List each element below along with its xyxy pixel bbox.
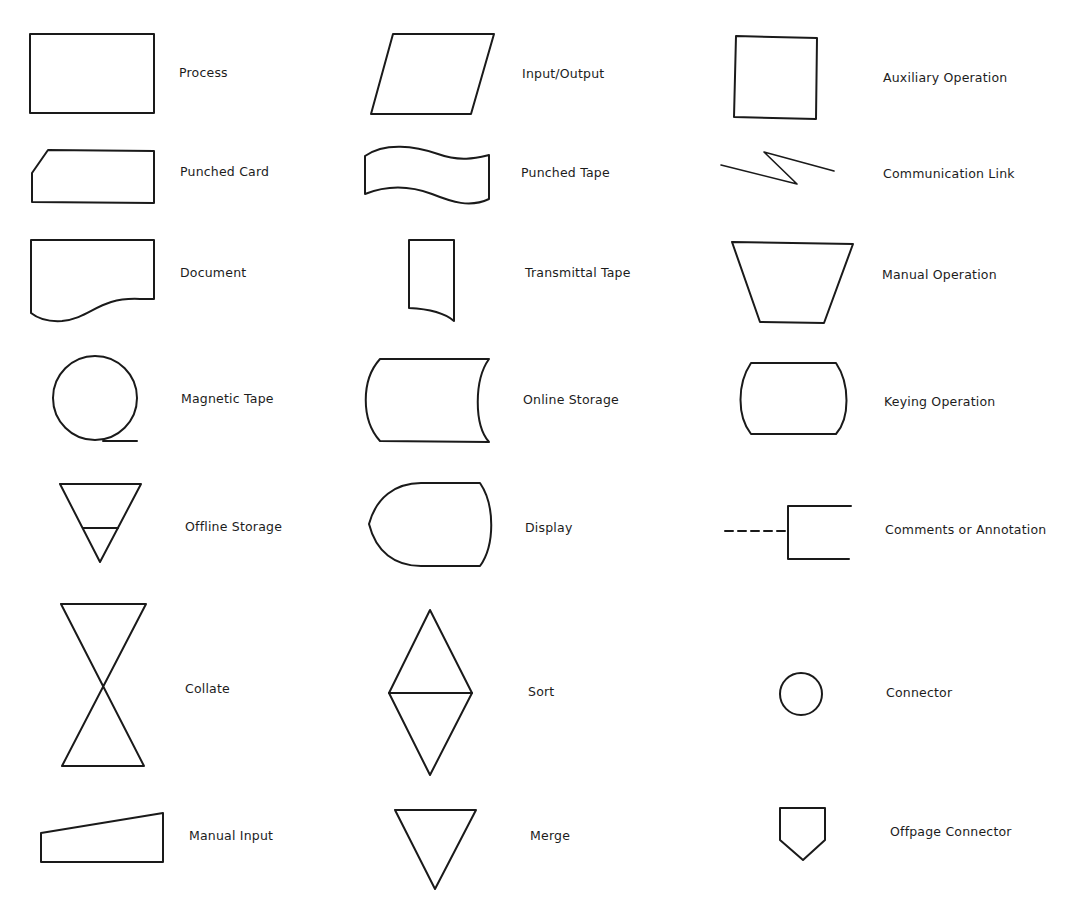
label-manual-input: Manual Input [189, 829, 273, 843]
transmittal-tape-symbol [409, 240, 454, 321]
label-online-storage: Online Storage [523, 393, 619, 407]
merge-symbol [395, 810, 476, 889]
label-punched-tape: Punched Tape [521, 166, 610, 180]
auxiliary-operation-symbol [734, 36, 817, 119]
label-comments-annotation: Comments or Annotation [885, 523, 1046, 537]
label-input-output: Input/Output [522, 67, 604, 81]
collate-symbol [61, 604, 146, 766]
manual-input-symbol [41, 813, 163, 862]
document-symbol [31, 240, 154, 321]
process-symbol [30, 34, 154, 113]
online-storage-symbol [366, 359, 489, 442]
label-offpage-connector: Offpage Connector [890, 825, 1012, 839]
punched-tape-symbol [365, 147, 489, 204]
communication-link-symbol [721, 152, 834, 184]
label-punched-card: Punched Card [180, 165, 269, 179]
magnetic-tape-symbol [53, 356, 137, 441]
label-merge: Merge [530, 829, 570, 843]
input-output-symbol [371, 34, 494, 114]
label-collate: Collate [185, 682, 230, 696]
offline-storage-symbol [60, 484, 141, 562]
label-transmittal-tape: Transmittal Tape [525, 266, 631, 280]
label-sort: Sort [528, 685, 554, 699]
offpage-connector-symbol [780, 808, 825, 860]
label-communication-link: Communication Link [883, 167, 1015, 181]
label-auxiliary-operation: Auxiliary Operation [883, 71, 1007, 85]
label-display: Display [525, 521, 572, 535]
comments-annotation-symbol [725, 506, 851, 559]
label-connector: Connector [886, 686, 952, 700]
sort-symbol [389, 610, 472, 775]
punched-card-symbol [32, 150, 154, 203]
keying-operation-symbol [741, 363, 847, 434]
label-process: Process [179, 66, 228, 80]
flowchart-symbols-canvas [0, 0, 1092, 922]
label-offline-storage: Offline Storage [185, 520, 282, 534]
connector-symbol [780, 673, 822, 715]
manual-operation-symbol [732, 242, 853, 323]
label-document: Document [180, 266, 246, 280]
label-manual-operation: Manual Operation [882, 268, 997, 282]
label-keying-operation: Keying Operation [884, 395, 995, 409]
display-symbol [369, 483, 491, 566]
label-magnetic-tape: Magnetic Tape [181, 392, 274, 406]
